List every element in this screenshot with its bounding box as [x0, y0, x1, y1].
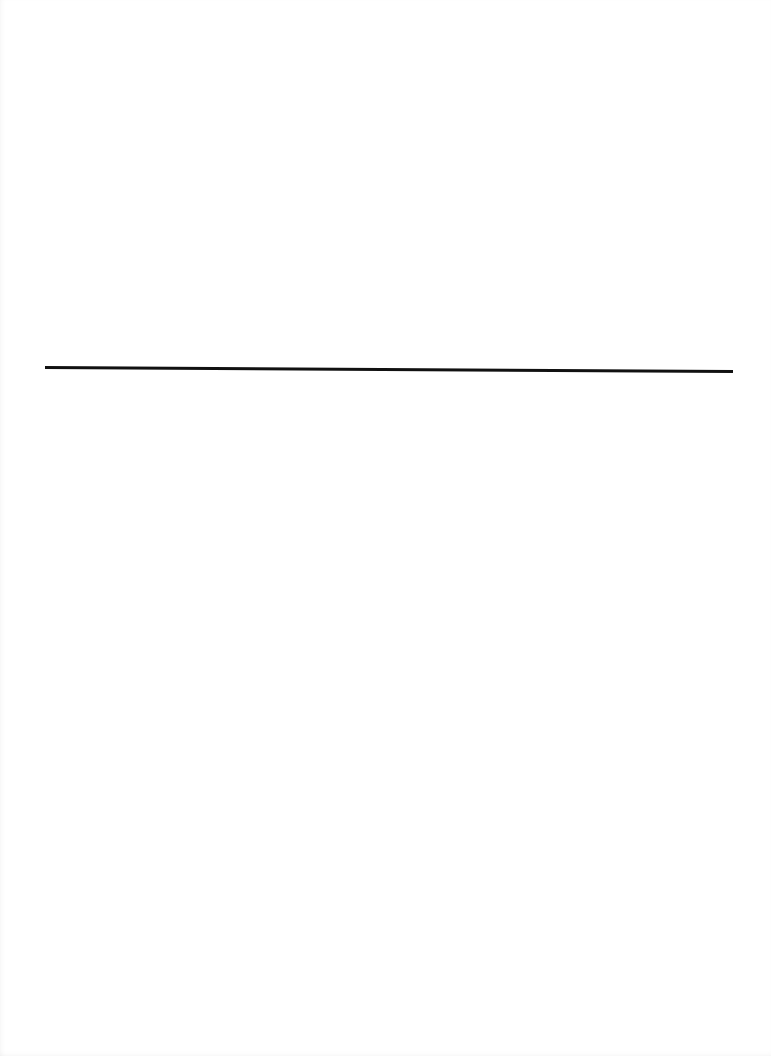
document-page [0, 0, 771, 1056]
horizontal-rule [45, 366, 733, 373]
